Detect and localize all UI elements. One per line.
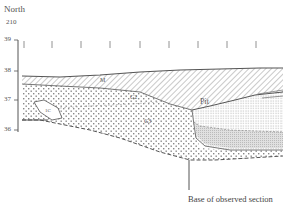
layer-label-g2: G2 (130, 94, 137, 100)
layer-label-m: M (100, 77, 105, 83)
vertical-axis (14, 40, 18, 132)
section-diagram (0, 0, 283, 207)
unit-markers (24, 41, 256, 48)
layer-label-g3: G3 (144, 118, 151, 124)
base-of-section-caption: Base of observed section (188, 194, 273, 204)
layer-label-1c: 1C (45, 108, 51, 113)
layer-label-pit: Pit (200, 98, 209, 106)
